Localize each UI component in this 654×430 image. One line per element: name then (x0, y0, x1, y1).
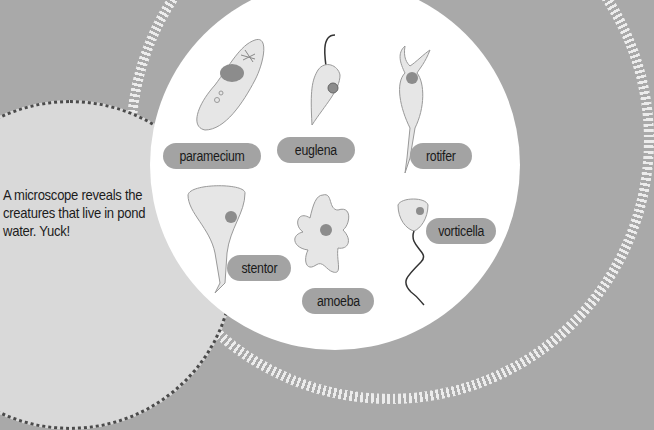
paramecium-illustration (185, 35, 285, 135)
vorticella-illustration (396, 197, 446, 307)
label-rotifer: rotifer (410, 143, 472, 169)
label-amoeba: amoeba (302, 288, 374, 314)
euglena-illustration (300, 30, 350, 130)
label-vorticella: vorticella (426, 218, 496, 244)
amoeba-illustration (288, 190, 358, 280)
label-paramecium: paramecium (163, 143, 261, 169)
label-euglena: euglena (277, 137, 355, 163)
caption-text: A microscope reveals the creatures that … (3, 186, 156, 240)
label-stentor: stentor (227, 255, 291, 281)
stentor-illustration (185, 183, 255, 303)
